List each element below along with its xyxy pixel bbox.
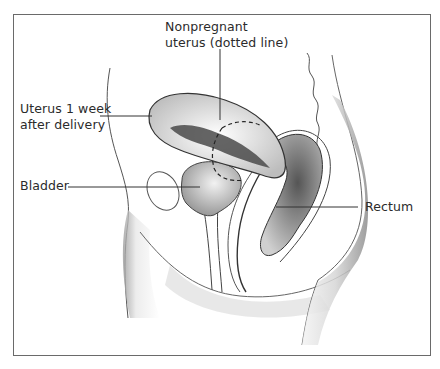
label-bladder: Bladder — [20, 178, 69, 194]
label-nonpregnant-uterus: Nonpregnant uterus (dotted line) — [165, 19, 288, 51]
label-uterus-postpartum: Uterus 1 week after delivery — [20, 101, 111, 133]
pubic-bone — [141, 167, 185, 216]
label-uterus-line1: Uterus 1 week — [20, 101, 111, 117]
label-rectum: Rectum — [365, 199, 413, 215]
urethra-wall — [217, 205, 222, 292]
bladder — [181, 162, 241, 216]
perineum-shading — [165, 265, 330, 318]
urethra — [204, 210, 212, 290]
label-uterus-line2: after delivery — [20, 117, 111, 133]
sacral-line — [307, 53, 319, 150]
thigh-shading — [123, 210, 160, 318]
label-nonpregnant-line2: uterus (dotted line) — [165, 35, 288, 51]
label-nonpregnant-line1: Nonpregnant — [165, 19, 288, 35]
